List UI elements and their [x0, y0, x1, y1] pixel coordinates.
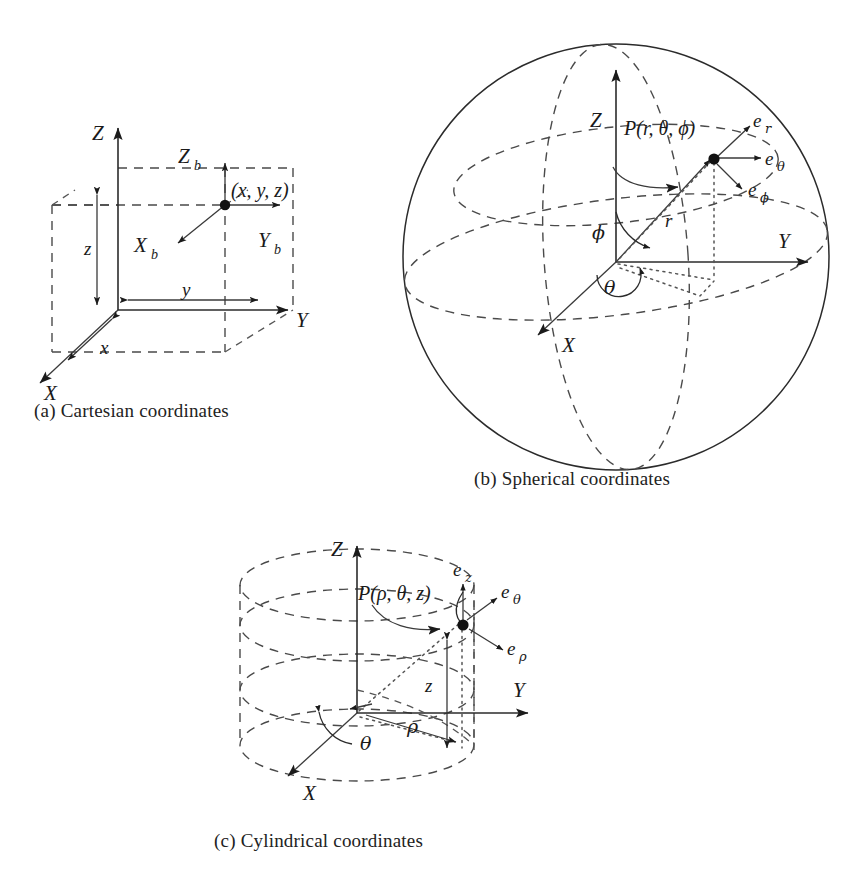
cylindrical-erho-label: e ρ [507, 638, 527, 664]
cylindrical-origin-tick [350, 704, 372, 709]
cylindrical-x-axis-label: X [302, 781, 317, 805]
svg-text:z: z [464, 570, 472, 585]
cylindrical-etheta-label: e θ [501, 581, 521, 607]
cylindrical-panel: Z Y X P(ρ, θ, z) ρ z θ e z e θ e ρ [0, 0, 855, 869]
svg-text:θ: θ [513, 592, 521, 607]
cylindrical-ez-label: e z [453, 559, 472, 585]
cylindrical-radial-guide [359, 622, 461, 711]
cylindrical-y-axis-label: Y [513, 678, 527, 702]
caption-cylindrical: (c) Cylindrical coordinates [214, 830, 423, 852]
cylindrical-etheta-vector [467, 598, 497, 620]
cylindrical-theta-arc [319, 712, 352, 744]
svg-text:ρ: ρ [518, 649, 527, 664]
cylindrical-point-label: P(ρ, θ, z) [357, 582, 431, 605]
cylindrical-theta-angle-label: θ [360, 732, 372, 754]
cylindrical-point-dot [457, 619, 468, 630]
svg-text:e: e [501, 581, 509, 602]
cylindrical-z-axis-label: Z [331, 537, 343, 561]
caption-spherical: (b) Spherical coordinates [474, 468, 670, 490]
cylinder-bottom-ellipse [240, 709, 474, 781]
cylindrical-main-axes [288, 546, 528, 776]
svg-text:e: e [507, 638, 515, 659]
cylindrical-point-pointer [372, 605, 440, 630]
svg-text:e: e [453, 559, 461, 580]
coordinate-systems-figure: Z Y X Z b Y b X b z y x (x, y, z) [0, 0, 855, 869]
caption-cartesian: (a) Cartesian coordinates [34, 400, 229, 422]
cylindrical-z-dimension-label: z [424, 675, 433, 696]
cylindrical-rho-label: ρ [406, 715, 419, 737]
